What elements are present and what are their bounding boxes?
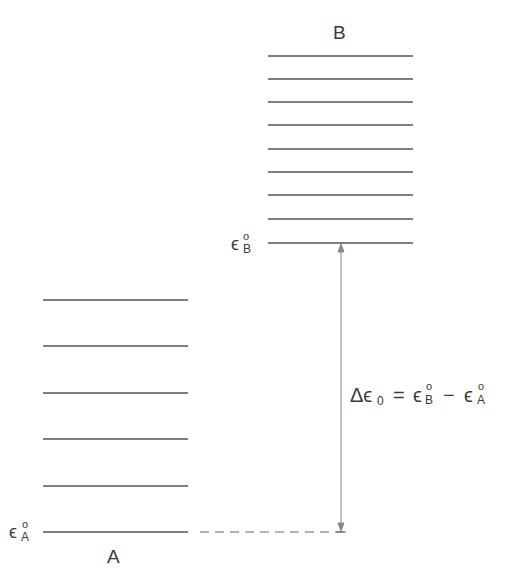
minus-sign: − — [443, 384, 455, 407]
subscript: B — [243, 242, 251, 256]
superscript: o — [22, 518, 28, 530]
energy-level-diagram — [0, 0, 518, 576]
epsilon-b: ϵ — [413, 384, 422, 407]
gap-arrow — [336, 244, 346, 532]
gap-equation: Δϵ 0 = ϵ o B − ϵ o A — [350, 378, 510, 414]
epsilon-symbol: ϵ — [9, 522, 17, 543]
epsilon-a: ϵ — [464, 384, 473, 407]
equals-sign: = — [393, 384, 405, 407]
subscript: A — [21, 530, 29, 544]
epsilon-symbol: ϵ — [231, 234, 239, 255]
system-a-label: A — [107, 546, 120, 568]
delta-subscript: 0 — [377, 394, 384, 408]
ground-energy-a-label: ϵ o A — [9, 520, 39, 550]
subscript-a: A — [477, 393, 485, 407]
superscript-b: o — [426, 380, 432, 392]
ground-energy-b-label: ϵ o B — [231, 232, 261, 262]
superscript-a: o — [478, 380, 484, 392]
superscript: o — [243, 230, 249, 242]
system-b-label: B — [333, 22, 346, 44]
delta-epsilon: Δϵ — [350, 384, 372, 407]
levels-b — [268, 56, 413, 243]
levels-a — [43, 300, 188, 532]
subscript-b: B — [425, 393, 433, 407]
